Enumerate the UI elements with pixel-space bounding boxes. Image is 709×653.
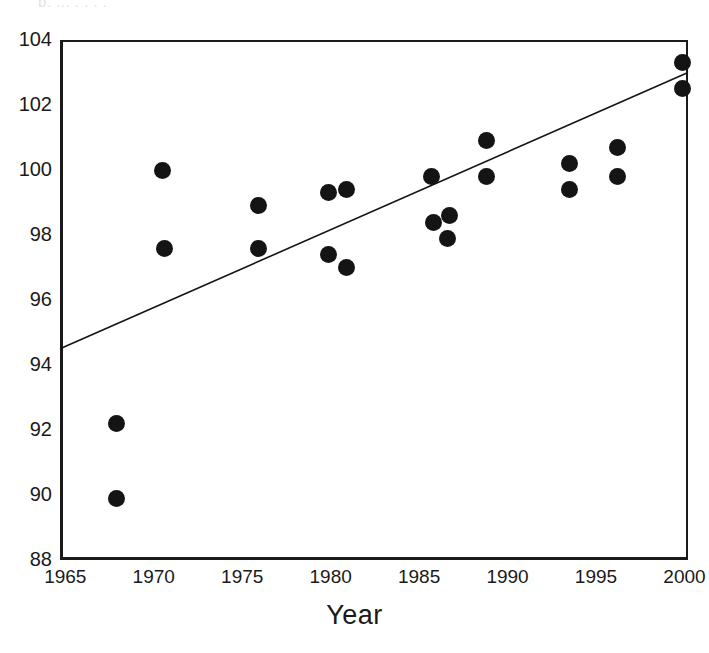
data-point [338, 259, 355, 276]
clipped-caption-text: p, ... . . . . [38, 0, 298, 7]
x-axis-tick-label: 1975 [207, 566, 277, 588]
data-point [674, 80, 691, 97]
data-point [250, 240, 267, 257]
data-point [561, 155, 578, 172]
x-axis-tick-label: 2000 [649, 566, 709, 588]
data-point [423, 168, 440, 185]
data-point [478, 168, 495, 185]
data-point [439, 230, 456, 247]
data-point [108, 490, 125, 507]
y-axis-tick-label: 100 [0, 158, 52, 181]
data-point [425, 214, 442, 231]
data-point [154, 162, 171, 179]
y-axis-tick-label: 94 [0, 353, 52, 376]
y-axis-tick-label: 102 [0, 93, 52, 116]
y-axis-tick-label: 90 [0, 483, 52, 506]
x-axis-title: Year [0, 600, 709, 631]
x-axis-tick-label: 1980 [296, 566, 366, 588]
data-point [250, 197, 267, 214]
data-point [478, 132, 495, 149]
data-point [609, 139, 626, 156]
y-axis-tick-label: 96 [0, 288, 52, 311]
x-axis-tick-label: 1970 [119, 566, 189, 588]
y-axis-tick-label: 98 [0, 223, 52, 246]
data-point [609, 168, 626, 185]
data-point [561, 181, 578, 198]
y-axis-tick-label: 104 [0, 28, 52, 51]
x-axis-tick-label: 1995 [561, 566, 631, 588]
scatter-plot-figure: p, ... . . . . 889092949698100102104 196… [0, 0, 709, 653]
x-axis-tick-label: 1965 [30, 566, 100, 588]
data-point [338, 181, 355, 198]
x-axis-tick-label: 1985 [384, 566, 454, 588]
data-point [156, 240, 173, 257]
y-axis-tick-label: 92 [0, 418, 52, 441]
plot-frame [60, 40, 688, 560]
data-point [441, 207, 458, 224]
data-point [674, 54, 691, 71]
x-axis-tick-label: 1990 [473, 566, 543, 588]
data-point [108, 415, 125, 432]
